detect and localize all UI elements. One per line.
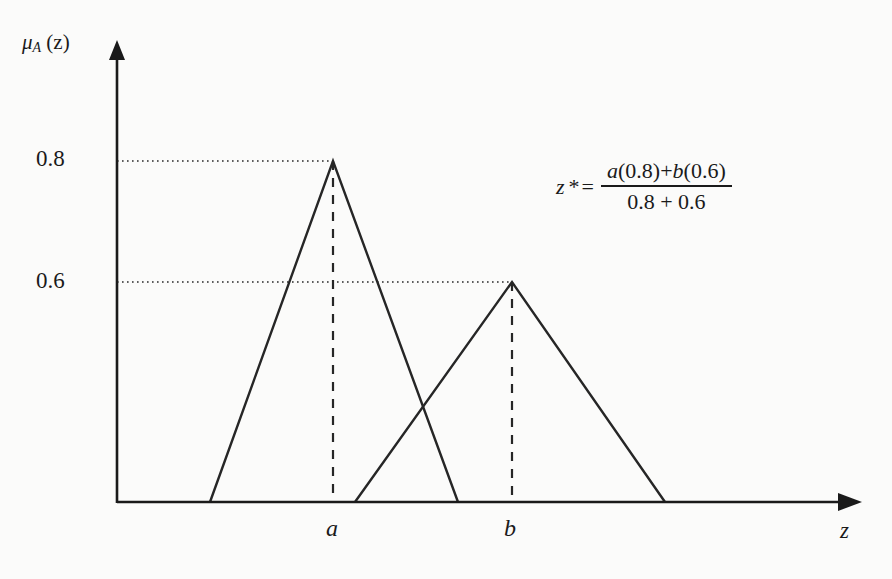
centroid-formula-annotation: z* = a(0.8)+b(0.6) 0.8 + 0.6 <box>556 160 732 213</box>
x-tick-label-b: b <box>504 516 516 540</box>
formula-equals: = <box>582 176 594 198</box>
y-axis-title-mu: μ <box>22 30 33 54</box>
figure-background <box>0 0 892 579</box>
y-tick-label-0.6: 0.6 <box>36 269 65 292</box>
formula-lhs: z <box>556 176 565 198</box>
x-axis-title: z <box>840 519 849 542</box>
y-tick-label-0.8: 0.8 <box>36 147 65 170</box>
formula-numerator-var-a: a <box>607 158 618 183</box>
formula-numerator-operator: + <box>660 158 672 183</box>
x-tick-label-a: a <box>326 516 338 540</box>
formula-denominator: 0.8 + 0.6 <box>621 187 711 213</box>
formula-numerator: a(0.8)+b(0.6) <box>601 160 732 185</box>
formula-numerator-var-b: b <box>673 158 684 183</box>
formula-star: * <box>569 176 580 198</box>
formula-numerator-term-b: (0.6) <box>684 158 726 183</box>
y-axis-title-argument: (z) <box>46 30 69 54</box>
formula-fraction: a(0.8)+b(0.6) 0.8 + 0.6 <box>601 160 732 213</box>
y-axis-title: μA (z) <box>22 32 70 55</box>
y-axis-title-subscript: A <box>33 40 42 55</box>
fuzzy-membership-diagram <box>0 0 892 579</box>
formula-numerator-term-a: (0.8) <box>618 158 660 183</box>
